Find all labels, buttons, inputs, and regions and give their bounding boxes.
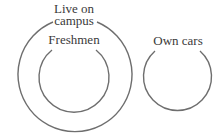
freshmen-circle xyxy=(39,50,109,112)
euler-diagram: Live on campus Freshmen Own cars xyxy=(0,0,220,138)
live-on-campus-label-line2: campus xyxy=(54,15,94,27)
freshmen-label: Freshmen xyxy=(48,34,99,46)
own-cars-circle xyxy=(143,51,211,110)
diagram-canvas xyxy=(0,0,220,138)
own-cars-label: Own cars xyxy=(153,35,202,47)
